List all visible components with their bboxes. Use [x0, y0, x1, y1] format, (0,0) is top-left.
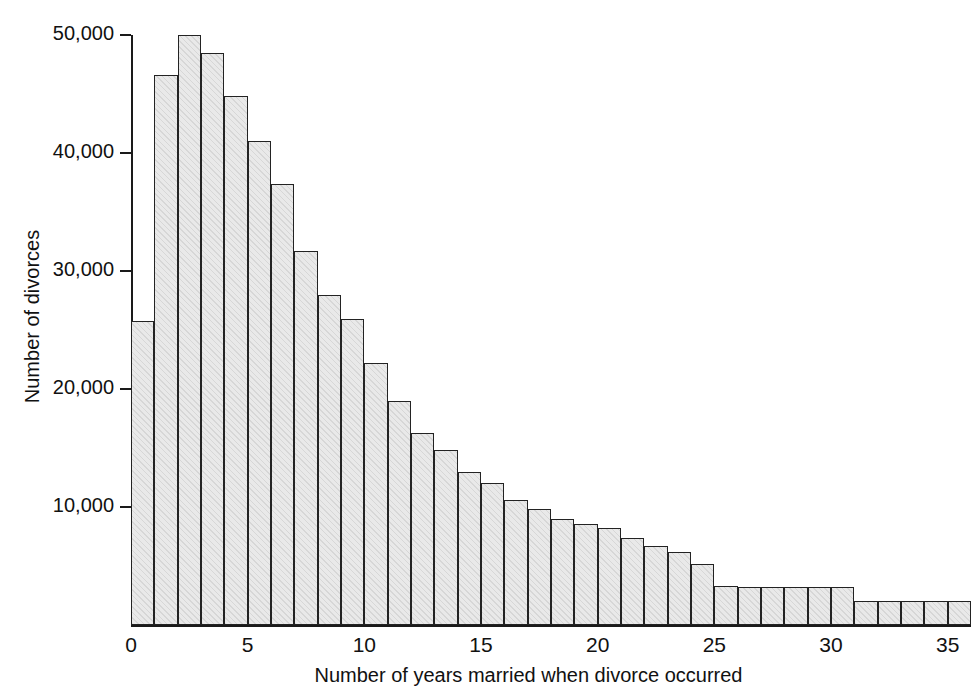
histogram-bar	[341, 319, 364, 625]
y-axis-title-text: Number of divorces	[21, 67, 44, 567]
x-tick-label: 25	[703, 634, 726, 655]
histogram-bar	[481, 483, 504, 625]
x-axis-title: Number of years married when divorce occ…	[0, 664, 971, 687]
plot-area	[131, 35, 971, 625]
histogram-bar	[574, 524, 597, 625]
histogram-bar	[924, 601, 947, 625]
histogram-bar	[458, 472, 481, 625]
histogram-bar	[388, 401, 411, 625]
x-tick-label: 0	[125, 634, 137, 655]
x-tick-label: 30	[819, 634, 842, 655]
histogram-bar	[831, 587, 854, 625]
x-tick-label: 20	[586, 634, 609, 655]
histogram-bar	[901, 601, 924, 625]
histogram-bar	[668, 552, 691, 625]
histogram-bar	[178, 35, 201, 625]
histogram-bar	[738, 587, 761, 625]
histogram-bar	[504, 500, 527, 625]
y-tick-mark	[120, 388, 131, 390]
histogram-bar	[761, 587, 784, 625]
x-tick-label: 35	[936, 634, 959, 655]
x-axis-line	[131, 625, 971, 627]
histogram-bar	[854, 601, 877, 625]
y-axis-title-wrap: Number of divorces	[0, 0, 40, 699]
histogram-bar	[808, 587, 831, 625]
y-tick-mark	[120, 506, 131, 508]
histogram-bar	[691, 564, 714, 625]
histogram-bar	[224, 96, 247, 625]
histogram-bar	[784, 587, 807, 625]
y-tick-mark	[120, 270, 131, 272]
y-tick-mark	[120, 152, 131, 154]
histogram-bar	[318, 295, 341, 625]
histogram-bar	[201, 53, 224, 625]
x-axis-title-text: Number of years married when divorce occ…	[315, 664, 743, 686]
histogram-bar	[294, 251, 317, 625]
histogram-bar	[364, 363, 387, 625]
histogram-bar	[248, 141, 271, 625]
histogram-bar	[154, 75, 177, 625]
histogram-bar	[551, 519, 574, 625]
histogram-bar	[621, 538, 644, 625]
histogram-bar	[131, 321, 154, 625]
histogram-bar	[411, 433, 434, 625]
histogram-bar	[528, 509, 551, 625]
histogram-bar	[878, 601, 901, 625]
y-tick-mark	[120, 34, 131, 36]
histogram-figure: 10,00020,00030,00040,00050,000 051015202…	[0, 0, 971, 699]
histogram-bar	[948, 601, 971, 625]
x-tick-label: 5	[242, 634, 254, 655]
histogram-bar	[598, 528, 621, 625]
x-tick-label: 10	[353, 634, 376, 655]
histogram-bar	[644, 546, 667, 625]
x-tick-label: 15	[469, 634, 492, 655]
histogram-bar	[271, 184, 294, 625]
histogram-bar	[434, 450, 457, 625]
histogram-bar	[714, 586, 737, 625]
